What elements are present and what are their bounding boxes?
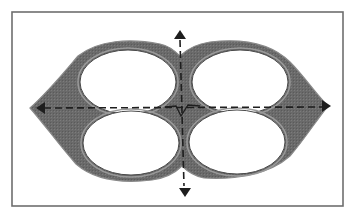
hole-bottom-right [189,110,285,174]
arrow-right-icon [322,100,331,112]
hole-top-right [192,50,288,114]
hole-bottom-left [83,111,179,175]
diagram-canvas [0,0,355,212]
arrow-up-icon [174,30,186,39]
hole-top-left [80,50,176,114]
arrow-down-icon [179,188,191,197]
plate-diagram [0,0,355,212]
